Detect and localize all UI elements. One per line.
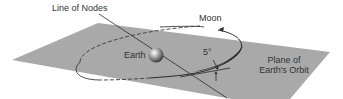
angle-label: 5° [203,48,212,57]
moon-label: Moon [199,14,222,23]
orbit-diagram [0,0,343,99]
moon-orbit-upper [160,26,204,27]
plane-label-line1: Plane of [254,56,314,65]
plane-label-line2: Earth's Orbit [254,66,314,75]
earth-sphere [149,48,164,63]
line-of-nodes-label: Line of Nodes [52,4,108,13]
plane-label: Plane of Earth's Orbit [254,56,314,75]
earth-label: Earth [124,51,146,60]
